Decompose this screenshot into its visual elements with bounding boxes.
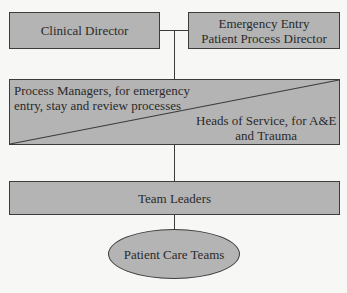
team-leaders-label: Team Leaders [138, 191, 211, 206]
patient-care-teams-label: Patient Care Teams [124, 247, 225, 262]
team-leaders-box: Team Leaders [9, 181, 340, 215]
process-managers-label: Process Managers, for emergency entry, s… [14, 83, 190, 113]
patient-care-teams-ellipse: Patient Care Teams [108, 229, 240, 279]
heads-of-service-label: Heads of Service, for A&E and Trauma [196, 113, 336, 143]
